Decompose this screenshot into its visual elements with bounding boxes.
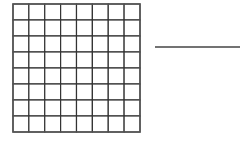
grid-cell — [29, 4, 45, 20]
diagram-svg — [0, 0, 240, 143]
grid-cell — [108, 4, 124, 20]
grid-cell — [61, 116, 77, 132]
grid-cell — [92, 100, 108, 116]
grid-cell — [108, 84, 124, 100]
grid-cell — [124, 20, 140, 36]
grid-cell — [61, 84, 77, 100]
grid-cell — [124, 100, 140, 116]
grid-cell — [92, 84, 108, 100]
grid-cell — [29, 100, 45, 116]
grid-cell — [77, 100, 93, 116]
grid-cell — [124, 4, 140, 20]
grid-cell — [61, 36, 77, 52]
grid-cell — [77, 52, 93, 68]
grid-cell — [124, 116, 140, 132]
grid-cell — [13, 4, 29, 20]
grid-cell — [124, 68, 140, 84]
grid-cell — [77, 116, 93, 132]
grid-cell — [45, 84, 61, 100]
grid-cell — [124, 84, 140, 100]
grid-cell — [29, 36, 45, 52]
grid-cell — [61, 100, 77, 116]
grid-cell — [77, 84, 93, 100]
grid-cell — [108, 36, 124, 52]
grid-cell — [45, 52, 61, 68]
grid-cell — [108, 68, 124, 84]
grid-cell — [45, 4, 61, 20]
grid — [13, 4, 140, 132]
grid-cell — [45, 36, 61, 52]
diagram-canvas — [0, 0, 240, 143]
grid-cell — [92, 4, 108, 20]
grid-cell — [29, 84, 45, 100]
grid-cell — [29, 20, 45, 36]
grid-cell — [61, 52, 77, 68]
grid-cell — [92, 116, 108, 132]
grid-cell — [92, 52, 108, 68]
grid-cell — [61, 68, 77, 84]
grid-cell — [124, 36, 140, 52]
grid-cell — [13, 52, 29, 68]
grid-cell — [92, 36, 108, 52]
grid-cell — [124, 52, 140, 68]
grid-cell — [13, 116, 29, 132]
grid-cell — [29, 52, 45, 68]
grid-cell — [45, 100, 61, 116]
grid-cell — [108, 20, 124, 36]
grid-cell — [29, 68, 45, 84]
grid-cell — [92, 68, 108, 84]
grid-cell — [108, 116, 124, 132]
grid-cell — [108, 100, 124, 116]
grid-cell — [13, 68, 29, 84]
grid-cell — [45, 20, 61, 36]
grid-cell — [61, 20, 77, 36]
grid-cell — [29, 116, 45, 132]
grid-cell — [77, 36, 93, 52]
grid-cell — [13, 36, 29, 52]
grid-cell — [45, 68, 61, 84]
grid-cell — [13, 20, 29, 36]
grid-cell — [77, 68, 93, 84]
grid-cell — [77, 20, 93, 36]
grid-cell — [61, 4, 77, 20]
grid-cell — [13, 100, 29, 116]
grid-cell — [13, 84, 29, 100]
grid-cell — [108, 52, 124, 68]
grid-cell — [45, 116, 61, 132]
grid-cell — [92, 20, 108, 36]
grid-cell — [77, 4, 93, 20]
